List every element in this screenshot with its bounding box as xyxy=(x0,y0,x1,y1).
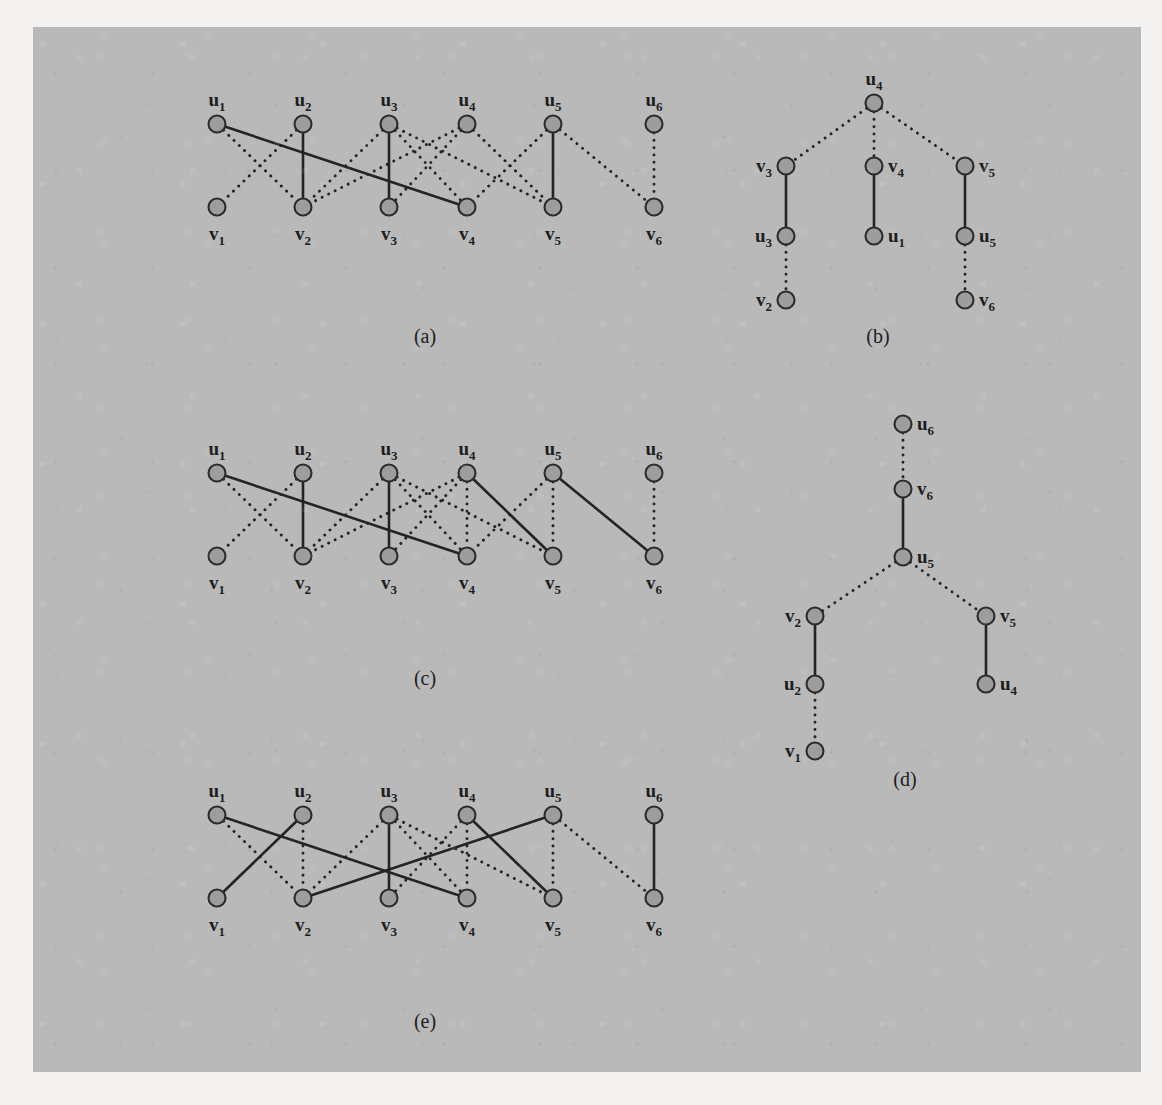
node-c-v3 xyxy=(381,548,398,565)
label-e-u1: u1 xyxy=(208,780,225,805)
label-e-v5: v5 xyxy=(545,914,562,939)
label-d-u5: u5 xyxy=(917,546,935,571)
edge-b-u4-v5-dotted xyxy=(881,108,957,161)
label-a-u1: u1 xyxy=(208,89,225,114)
document-page: the structure of the graph is determined… xyxy=(0,0,1162,1105)
edge-a-u4-v2-dotted xyxy=(311,128,459,203)
node-c-v5 xyxy=(545,548,562,565)
label-d-u4: u4 xyxy=(1000,673,1018,698)
label-a-v4: v4 xyxy=(459,223,476,248)
node-b-v2 xyxy=(778,292,795,309)
label-c-v1: v1 xyxy=(209,572,225,597)
node-a-u2 xyxy=(295,116,312,133)
label-e-u5: u5 xyxy=(544,780,562,805)
label-d-v6: v6 xyxy=(917,478,934,503)
label-d-u6: u6 xyxy=(917,413,935,438)
label-a-v5: v5 xyxy=(545,223,562,248)
node-b-u3 xyxy=(778,228,795,245)
node-d-u5 xyxy=(895,549,912,566)
node-e-v3 xyxy=(381,890,398,907)
node-a-v2 xyxy=(295,199,312,216)
label-a-u3: u3 xyxy=(380,89,398,114)
label-b-v4: v4 xyxy=(888,155,905,180)
label-a-u6: u6 xyxy=(645,89,663,114)
node-e-u2 xyxy=(295,807,312,824)
node-c-u2 xyxy=(295,465,312,482)
node-e-u1 xyxy=(209,807,226,824)
node-c-u1 xyxy=(209,465,226,482)
node-d-v6 xyxy=(895,481,912,498)
node-e-v4 xyxy=(459,890,476,907)
label-d-v2: v2 xyxy=(785,605,801,630)
label-e-u6: u6 xyxy=(645,780,663,805)
node-c-u6 xyxy=(646,465,663,482)
node-a-u5 xyxy=(545,116,562,133)
panel-caption-b: (b) xyxy=(866,325,889,348)
node-b-v4 xyxy=(866,158,883,175)
node-d-v5 xyxy=(978,608,995,625)
label-c-u6: u6 xyxy=(645,438,663,463)
label-c-v3: v3 xyxy=(381,572,398,597)
node-a-u1 xyxy=(209,116,226,133)
node-a-u4 xyxy=(459,116,476,133)
node-d-v1 xyxy=(807,743,824,760)
node-a-v4 xyxy=(459,199,476,216)
node-e-u3 xyxy=(381,807,398,824)
node-a-v5 xyxy=(545,199,562,216)
label-b-v3: v3 xyxy=(756,155,773,180)
label-e-u2: u2 xyxy=(294,780,311,805)
node-e-v6 xyxy=(646,890,663,907)
label-c-u4: u4 xyxy=(458,438,476,463)
node-a-u6 xyxy=(646,116,663,133)
node-b-u5 xyxy=(957,228,974,245)
label-b-u5: u5 xyxy=(979,225,997,250)
node-e-u5 xyxy=(545,807,562,824)
node-a-u3 xyxy=(381,116,398,133)
node-c-u3 xyxy=(381,465,398,482)
node-c-v1 xyxy=(209,548,226,565)
panel-caption-e: (e) xyxy=(414,1010,436,1033)
figure-svg: u1u2u3u4u5u6v1v2v3v4v5v6(a)u4v3v4v5u3u1u… xyxy=(33,27,1141,1072)
label-c-u2: u2 xyxy=(294,438,311,463)
node-c-v6 xyxy=(646,548,663,565)
node-b-u1 xyxy=(866,228,883,245)
node-d-u2 xyxy=(807,676,824,693)
node-d-u6 xyxy=(895,416,912,433)
label-c-v6: v6 xyxy=(646,572,663,597)
edge-a-u5-v6-dotted xyxy=(560,130,647,202)
label-e-v6: v6 xyxy=(646,914,663,939)
node-c-u4 xyxy=(459,465,476,482)
label-d-u2: u2 xyxy=(784,673,801,698)
label-b-u4: u4 xyxy=(865,68,883,93)
node-b-v5 xyxy=(957,158,974,175)
label-e-v3: v3 xyxy=(381,914,398,939)
node-e-u4 xyxy=(459,807,476,824)
label-b-v6: v6 xyxy=(979,289,996,314)
node-d-v2 xyxy=(807,608,824,625)
label-b-u1: u1 xyxy=(888,225,905,250)
node-c-v4 xyxy=(459,548,476,565)
edge-e-u4-v5-solid xyxy=(473,821,546,892)
label-a-v3: v3 xyxy=(381,223,398,248)
panel-caption-a: (a) xyxy=(414,325,436,348)
node-c-v2 xyxy=(295,548,312,565)
node-c-u5 xyxy=(545,465,562,482)
label-e-v2: v2 xyxy=(295,914,311,939)
label-c-u3: u3 xyxy=(380,438,398,463)
label-a-v1: v1 xyxy=(209,223,225,248)
edge-d-u5-v2-dotted xyxy=(822,562,895,611)
label-a-u5: u5 xyxy=(544,89,562,114)
node-a-v1 xyxy=(209,199,226,216)
label-c-v2: v2 xyxy=(295,572,311,597)
label-e-v1: v1 xyxy=(209,914,225,939)
label-e-u4: u4 xyxy=(458,780,476,805)
node-b-v6 xyxy=(957,292,974,309)
label-b-v5: v5 xyxy=(979,155,996,180)
label-c-v4: v4 xyxy=(459,572,476,597)
label-a-u2: u2 xyxy=(294,89,311,114)
label-c-u5: u5 xyxy=(544,438,562,463)
edge-b-u4-v3-dotted xyxy=(793,108,866,161)
node-e-v1 xyxy=(209,890,226,907)
label-b-u3: u3 xyxy=(755,225,773,250)
label-d-v1: v1 xyxy=(785,740,801,765)
